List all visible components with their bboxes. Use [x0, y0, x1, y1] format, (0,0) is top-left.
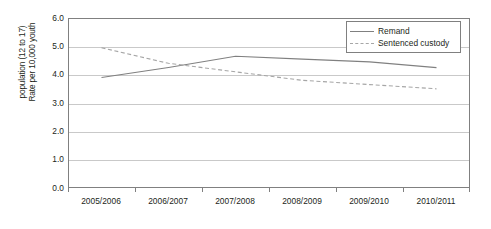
y-tick-label-1: 1.0	[38, 155, 64, 164]
y-axis-title-line-2: population (12 to 17)	[18, 26, 28, 99]
x-tick-mark-6	[469, 188, 470, 192]
legend-swatch-dashed-line-icon	[350, 43, 374, 44]
series-line-sentenced-custody	[102, 48, 437, 89]
y-tick-label-6: 6.0	[38, 14, 64, 23]
line-chart: Rate per 10,000 youth population (12 to …	[0, 0, 491, 229]
x-tick-label-2005-2006: 2005/2006	[64, 196, 138, 206]
y-tick-label-2: 2.0	[38, 127, 64, 136]
y-tick-label-5: 5.0	[38, 42, 64, 51]
y-tick-label-4: 4.0	[38, 70, 64, 79]
x-tick-mark-0	[68, 188, 69, 192]
x-tick-label-2008-2009: 2008/2009	[265, 196, 339, 206]
legend: Remand Sentenced custody	[346, 21, 461, 53]
series-line-remand	[102, 56, 437, 77]
legend-swatch-solid-line-icon	[350, 31, 374, 32]
x-tick-mark-4	[336, 188, 337, 192]
x-tick-label-2010-2011: 2010/2011	[399, 196, 473, 206]
x-tick-label-2009-2010: 2009/2010	[332, 196, 406, 206]
legend-label-sentenced-custody: Sentenced custody	[378, 38, 449, 48]
y-tick-label-3: 3.0	[38, 99, 64, 108]
y-tick-label-0: 0.0	[38, 184, 64, 193]
x-tick-mark-5	[403, 188, 404, 192]
legend-item-remand: Remand	[350, 25, 456, 37]
legend-item-sentenced-custody: Sentenced custody	[350, 37, 456, 49]
legend-label-remand: Remand	[378, 26, 410, 36]
x-tick-mark-3	[269, 188, 270, 192]
y-axis-title-line-1: Rate per 10,000 youth	[28, 23, 38, 102]
x-tick-mark-2	[202, 188, 203, 192]
x-tick-label-2007-2008: 2007/2008	[198, 196, 272, 206]
x-tick-label-2006-2007: 2006/2007	[131, 196, 205, 206]
x-tick-mark-1	[135, 188, 136, 192]
